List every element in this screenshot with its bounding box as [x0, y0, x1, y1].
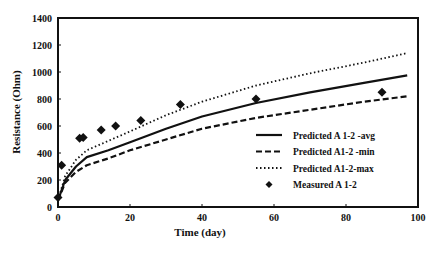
series-line-dotted: [58, 53, 407, 200]
x-tick-label: 60: [269, 212, 279, 223]
chart: 0200400600800100012001400 020406080100 T…: [0, 0, 435, 254]
y-tick-label: 600: [37, 121, 52, 132]
legend: Predicted A 1-2 -avgPredicted A1-2 -minP…: [256, 131, 375, 191]
y-tick-label: 0: [47, 202, 52, 213]
y-tick-label: 1400: [32, 13, 52, 24]
legend-label: Predicted A1-2 -min: [293, 147, 375, 157]
y-axis-title: Resistance (Ohm): [10, 70, 23, 154]
x-tick-label: 0: [56, 212, 61, 223]
x-tick-label: 40: [197, 212, 207, 223]
legend-label: Measured A 1-2: [293, 180, 357, 190]
x-tick-label: 20: [125, 212, 135, 223]
x-axis-title: Time (day): [174, 226, 226, 239]
y-tick-label: 1200: [32, 40, 52, 51]
y-tick-label: 400: [37, 148, 52, 159]
y-tick-label: 200: [37, 175, 52, 186]
measured-point-marker: [97, 126, 106, 135]
legend-swatch-diamond-icon: [266, 181, 273, 188]
series-lines: [58, 53, 407, 200]
measured-point-marker: [111, 122, 120, 131]
y-tick-label: 1000: [32, 67, 52, 78]
y-axis-ticks: 0200400600800100012001400: [32, 13, 61, 213]
legend-label: Predicted A 1-2 -avg: [293, 131, 375, 141]
x-tick-label: 100: [411, 212, 426, 223]
measured-point-marker: [378, 88, 387, 97]
x-tick-label: 80: [341, 212, 351, 223]
plot-frame: [58, 18, 418, 207]
legend-label: Predicted A1-2-max: [293, 164, 374, 174]
measured-point-marker: [176, 100, 185, 109]
y-tick-label: 800: [37, 94, 52, 105]
measured-point-marker: [136, 116, 145, 125]
